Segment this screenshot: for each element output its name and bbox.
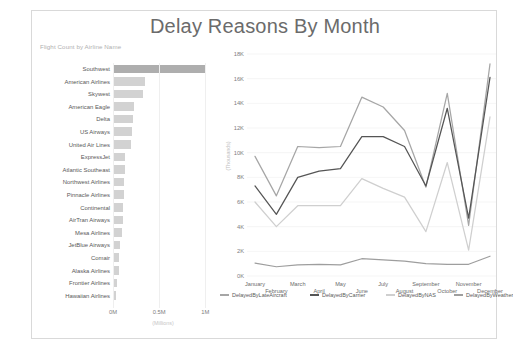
line-chart-x-tick: September xyxy=(412,281,439,287)
bar-row[interactable]: JetBlue Airways xyxy=(34,239,210,252)
bar-row[interactable]: Comair xyxy=(34,252,210,265)
bar-row[interactable]: United Air Lines xyxy=(34,139,210,152)
line-chart-y-tick: 10K xyxy=(222,150,244,156)
bar-fill[interactable] xyxy=(113,153,125,162)
bar-track xyxy=(113,241,210,250)
page-title: Delay Reasons By Month xyxy=(32,15,498,38)
bar-category-label: Southwest xyxy=(34,64,110,74)
bar-track xyxy=(113,153,210,162)
bar-row[interactable]: Southwest xyxy=(34,63,210,76)
bar-fill[interactable] xyxy=(113,190,124,199)
bar-category-label: Frontier Airlines xyxy=(34,278,110,288)
bar-fill[interactable] xyxy=(113,140,131,149)
bar-category-label: ExpressJet xyxy=(34,152,110,162)
bar-category-label: Northwest Airlines xyxy=(34,177,110,187)
bar-row[interactable]: US Airways xyxy=(34,126,210,139)
bar-category-label: United Air Lines xyxy=(34,140,110,150)
bar-fill[interactable] xyxy=(113,77,145,86)
bar-chart-plot: SouthwestAmerican AirlinesSkywestAmerica… xyxy=(34,63,210,308)
bar-category-label: Delta xyxy=(34,114,110,124)
bar-row[interactable]: AirTran Airways xyxy=(34,214,210,227)
legend-item[interactable]: DelayedByCarrier xyxy=(310,292,365,298)
bar-category-label: US Airways xyxy=(34,127,110,137)
legend-swatch-icon xyxy=(454,294,463,296)
bar-fill[interactable] xyxy=(113,216,123,225)
bar-track xyxy=(113,102,210,111)
bar-fill[interactable] xyxy=(113,165,125,174)
line-chart-y-tick: 18K xyxy=(222,51,244,57)
line-chart-y-tick: 12K xyxy=(222,125,244,131)
bar-category-label: Pinnacle Airlines xyxy=(34,190,110,200)
bar-row[interactable]: ExpressJet xyxy=(34,151,210,164)
bar-track xyxy=(113,90,210,99)
bar-row[interactable]: Northwest Airlines xyxy=(34,176,210,189)
bar-row[interactable]: Atlantic Southeast xyxy=(34,164,210,177)
bar-row[interactable]: American Airlines xyxy=(34,76,210,89)
line-chart-x-tick: May xyxy=(335,281,346,287)
bar-chart-axis-caption: (Millions) xyxy=(152,320,174,326)
bar-category-label: Mesa Airlines xyxy=(34,228,110,238)
bar-track xyxy=(113,140,210,149)
bar-row[interactable]: American Eagle xyxy=(34,101,210,114)
bar-track xyxy=(113,178,210,187)
legend-label: DelayedByLateAircraft xyxy=(232,292,287,298)
line-chart-x-tick: January xyxy=(245,281,265,287)
bar-track xyxy=(113,203,210,212)
bar-fill[interactable] xyxy=(113,228,122,237)
line-chart-y-tick: 4K xyxy=(222,224,244,230)
line-series-delayedbycarrier[interactable] xyxy=(255,77,490,218)
bar-fill[interactable] xyxy=(113,115,133,124)
bar-row[interactable]: Continental xyxy=(34,202,210,215)
legend-label: DelayedByWeather xyxy=(466,292,513,298)
bar-row[interactable]: Hawaiian Airlines xyxy=(34,290,210,303)
bar-category-label: American Airlines xyxy=(34,77,110,87)
bar-track xyxy=(113,216,210,225)
bar-chart-card[interactable]: Flight Count by Airline Name SouthwestAm… xyxy=(34,43,210,335)
bar-fill[interactable] xyxy=(113,90,143,99)
bar-track xyxy=(113,165,210,174)
line-chart-x-tick: July xyxy=(378,281,388,287)
line-chart-y-tick: 6K xyxy=(222,199,244,205)
bar-row[interactable]: Pinnacle Airlines xyxy=(34,189,210,202)
line-series-delayedbyweather[interactable] xyxy=(255,256,490,266)
bar-gridline xyxy=(113,63,114,308)
line-chart-x-tick: November xyxy=(456,281,482,287)
line-chart-x-tick: March xyxy=(290,281,306,287)
bar-x-tick: 0M xyxy=(109,309,117,315)
bar-row[interactable]: Alaska Airlines xyxy=(34,265,210,278)
bar-fill[interactable] xyxy=(113,203,123,212)
bar-fill[interactable] xyxy=(113,102,134,111)
bar-row[interactable]: Skywest xyxy=(34,88,210,101)
legend-swatch-icon xyxy=(386,294,395,296)
legend-item[interactable]: DelayedByNAS xyxy=(386,292,436,298)
bar-track xyxy=(113,127,210,136)
bar-fill[interactable] xyxy=(113,127,132,136)
bar-category-label: Skywest xyxy=(34,89,110,99)
bar-category-label: JetBlue Airways xyxy=(34,240,110,250)
line-chart-y-tick: 16K xyxy=(222,76,244,82)
bar-gridline xyxy=(205,63,206,308)
bar-fill[interactable] xyxy=(113,241,120,250)
legend-item[interactable]: DelayedByWeather xyxy=(454,292,513,298)
legend-swatch-icon xyxy=(310,294,319,296)
bar-row[interactable]: Frontier Airlines xyxy=(34,277,210,290)
report-canvas: Delay Reasons By Month Flight Count by A… xyxy=(31,10,497,339)
bar-track xyxy=(113,190,210,199)
legend-label: DelayedByCarrier xyxy=(322,292,365,298)
line-chart-y-tick: 8K xyxy=(222,174,244,180)
bar-track xyxy=(113,228,210,237)
line-chart-y-tick: 2K xyxy=(222,248,244,254)
line-chart-y-tick: 14K xyxy=(222,100,244,106)
bar-track xyxy=(113,65,210,74)
line-chart-y-axis-label: (Thousands) xyxy=(225,136,231,176)
bar-category-label: Alaska Airlines xyxy=(34,266,110,276)
bar-row[interactable]: Mesa Airlines xyxy=(34,227,210,240)
bar-fill[interactable] xyxy=(113,178,124,187)
bar-row[interactable]: Delta xyxy=(34,113,210,126)
line-chart-legend[interactable]: DelayedByLateAircraftDelayedByCarrierDel… xyxy=(214,292,496,306)
legend-item[interactable]: DelayedByLateAircraft xyxy=(220,292,287,298)
bar-track xyxy=(113,115,210,124)
bar-category-label: Atlantic Southeast xyxy=(34,165,110,175)
legend-label: DelayedByNAS xyxy=(398,292,436,298)
bar-category-label: AirTran Airways xyxy=(34,215,110,225)
